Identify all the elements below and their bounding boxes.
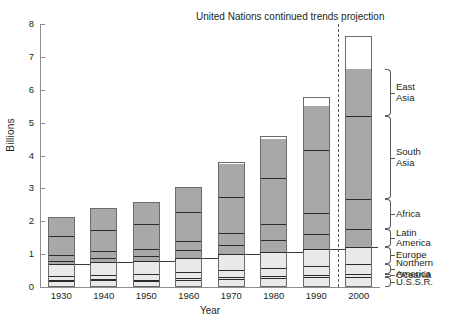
segment-divider [218, 277, 245, 278]
y-tick-label-3: 3 [12, 183, 34, 193]
segment-divider [303, 277, 330, 278]
segment-2000-u-s-s-r [345, 277, 372, 287]
segment-1980-europe [260, 252, 287, 268]
segment-divider [345, 247, 372, 248]
segment-divider [303, 249, 330, 250]
bar-1940[interactable] [90, 208, 117, 287]
legend-brace-tick [391, 255, 395, 256]
legend-label-south-asia: South Asia [396, 147, 421, 168]
x-tick-label-1980: 1980 [251, 290, 297, 301]
segment-divider [260, 252, 287, 253]
y-tick-2 [40, 221, 45, 222]
segment-divider [175, 280, 202, 281]
segment-1960-latin-america [175, 250, 202, 257]
segment-1960-africa [175, 241, 202, 250]
x-tick-label-2000: 2000 [336, 290, 382, 301]
step-segment-vertical [260, 252, 261, 255]
bar-1970[interactable] [218, 162, 245, 287]
segment-divider [90, 279, 117, 280]
legend-label-east-asia: East Asia [396, 82, 415, 103]
segment-divider [303, 234, 330, 235]
step-segment-horizontal [75, 264, 91, 265]
segment-divider [218, 197, 245, 198]
x-tick-label-1970: 1970 [208, 290, 254, 301]
segment-1940-south-asia [90, 230, 117, 252]
segment-divider [260, 178, 287, 179]
segment-1980-u-s-s-r [260, 278, 287, 287]
segment-1970-northern-america [218, 270, 245, 278]
segment-divider [90, 230, 117, 231]
legend-brace-tick [391, 275, 395, 276]
segment-divider [260, 268, 287, 269]
legend-brace-tick [391, 214, 395, 215]
segment-1930-east-asia [48, 217, 75, 236]
step-segment-vertical [175, 258, 176, 262]
x-tick-label-1940: 1940 [81, 290, 127, 301]
segment-1950-east-asia [133, 202, 160, 224]
segment-1960-east-asia [175, 187, 202, 212]
step-segment-vertical [218, 254, 219, 257]
y-tick-1 [40, 254, 45, 255]
segment-1970-africa [218, 233, 245, 245]
segment-1960-south-asia [175, 212, 202, 241]
legend-brace-tick [391, 282, 395, 283]
segment-divider [260, 240, 287, 241]
segment-divider [175, 250, 202, 251]
y-tick-label-1: 1 [12, 249, 34, 259]
chart-title: United Nations continued trends projecti… [196, 11, 384, 22]
bar-1950[interactable] [133, 202, 160, 287]
segment-divider [48, 264, 75, 265]
step-segment-vertical [90, 262, 91, 264]
segment-1970-latin-america [218, 245, 245, 255]
x-tick-label-1990: 1990 [293, 290, 339, 301]
bar-1990[interactable] [303, 97, 330, 287]
segment-1950-south-asia [133, 224, 160, 249]
segment-divider [218, 254, 245, 255]
y-tick-6 [40, 90, 45, 91]
bar-1930[interactable] [48, 217, 75, 287]
segment-1980-northern-america [260, 268, 287, 276]
legend-brace-tick [391, 269, 395, 270]
y-tick-label-0: 0 [12, 282, 34, 292]
legend-label-africa: Africa [396, 209, 420, 220]
segment-divider [90, 262, 117, 263]
legend-label-u-s-s-r: U.S.S.R. [396, 277, 433, 288]
segment-divider [175, 212, 202, 213]
segment-divider [175, 258, 202, 259]
population-stacked-bar-chart: United Nations continued trends projecti… [0, 0, 453, 326]
segment-2000-europe [345, 247, 372, 264]
segment-1980-latin-america [260, 240, 287, 252]
projection-divider-line [338, 24, 339, 287]
segment-divider [133, 261, 160, 262]
step-segment-horizontal [117, 262, 133, 263]
y-tick-0 [40, 287, 45, 288]
y-tick-label-8: 8 [12, 19, 34, 29]
segment-1930-europe [48, 264, 75, 276]
segment-divider [90, 280, 117, 281]
segment-divider [303, 213, 330, 214]
bar-1980[interactable] [260, 136, 287, 287]
segment-divider [90, 251, 117, 252]
segment-1990-northern-america [303, 266, 330, 275]
bar-2000[interactable] [345, 36, 372, 287]
segment-divider [133, 224, 160, 225]
segment-divider [175, 241, 202, 242]
segment-divider [303, 275, 330, 276]
y-tick-label-6: 6 [12, 85, 34, 95]
segment-1990-south-asia [303, 150, 330, 213]
step-segment-vertical [303, 249, 304, 252]
bar-1960[interactable] [175, 187, 202, 287]
y-tick-7 [40, 57, 45, 58]
segment-divider [345, 264, 372, 265]
y-tick-label-7: 7 [12, 52, 34, 62]
segment-divider [133, 256, 160, 257]
segment-divider [260, 276, 287, 277]
segment-divider [90, 258, 117, 259]
y-tick-label-2: 2 [12, 216, 34, 226]
x-axis-title: Year [40, 306, 380, 316]
segment-1970-south-asia [218, 197, 245, 233]
segment-divider [218, 270, 245, 271]
segment-1990-europe [303, 249, 330, 265]
segment-1990-africa [303, 213, 330, 235]
step-segment-horizontal [160, 261, 176, 262]
